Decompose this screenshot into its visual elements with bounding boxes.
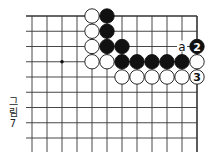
move-number-label: 2: [193, 41, 201, 54]
black-stone-icon: [130, 55, 144, 69]
white-stone-icon: [85, 24, 99, 38]
star-point-icon: [60, 60, 64, 64]
caption-char: 그: [6, 96, 20, 107]
white-stone-icon: [85, 9, 99, 23]
white-stone-icon: [85, 39, 99, 53]
black-stone-icon: [115, 55, 129, 69]
white-stone-icon: [160, 70, 174, 84]
white-stone-icon: [115, 70, 129, 84]
point-label-a: a: [178, 40, 185, 54]
black-stone-icon: [100, 24, 114, 38]
star-points: [60, 60, 64, 64]
black-stone-icon: [160, 55, 174, 69]
white-stone-icon: [175, 70, 189, 84]
black-stone-icon: [145, 55, 159, 69]
white-stone-icon: [85, 55, 99, 69]
black-stone-icon: [115, 39, 129, 53]
white-stone-icon: [145, 70, 159, 84]
figure-caption: 그 림 7: [6, 96, 20, 129]
white-stone-icon: [130, 70, 144, 84]
black-stone-icon: [100, 39, 114, 53]
caption-char: 7: [6, 118, 20, 129]
white-stone-icon: [100, 55, 114, 69]
move-number-label: 3: [193, 71, 201, 84]
board-marks: a: [177, 40, 187, 54]
black-stone-icon: [100, 9, 114, 23]
caption-char: 림: [6, 107, 20, 118]
black-stone-icon: [175, 55, 189, 69]
go-board-diagram: a 23: [0, 0, 216, 158]
white-stone-icon: [190, 55, 204, 69]
